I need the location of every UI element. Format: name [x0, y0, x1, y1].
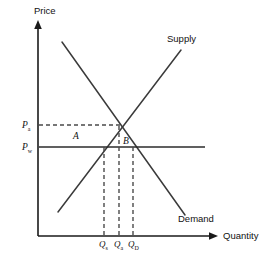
figure-root: Price Quantity Supply Demand Pa Pw Qs Qa: [0, 0, 265, 266]
qty-tick-qd-sub: D: [135, 245, 140, 251]
price-tick-pa: Pa: [21, 120, 31, 132]
x-axis-title: Quantity: [223, 230, 259, 241]
qty-tick-qa: Qa: [114, 239, 124, 251]
supply-demand-chart: Price Quantity Supply Demand Pa Pw Qs Qa: [0, 0, 265, 266]
y-axis-arrow-icon: [34, 20, 42, 29]
supply-curve-label: Supply: [167, 33, 196, 44]
price-tick-pw-sub: w: [28, 148, 33, 154]
x-axis-arrow-icon: [209, 232, 218, 240]
qty-tick-qd: QD: [128, 239, 140, 251]
demand-curve-label: Demand: [178, 213, 214, 224]
area-label-b: B: [123, 136, 129, 146]
qty-tick-qa-sub: a: [121, 245, 124, 251]
price-tick-pw: Pw: [21, 142, 33, 154]
price-tick-pa-sub: a: [28, 126, 31, 132]
y-axis-title: Price: [34, 5, 56, 16]
qty-tick-qs: Qs: [99, 239, 109, 251]
area-label-a: A: [72, 131, 79, 141]
qty-tick-qs-sub: s: [106, 245, 109, 251]
